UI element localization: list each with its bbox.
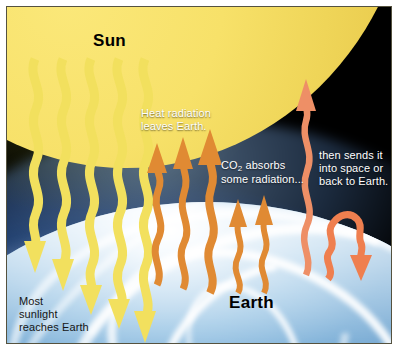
heat-arrow-3 [195,125,229,295]
label-heat-radiation-line2: leaves Earth. [141,120,251,133]
label-heat-radiation: Heat radiation leaves Earth. [141,107,251,133]
label-then-sends-it: then sends it into space or back to Eart… [319,149,391,188]
heat-arrow-4 [225,183,253,295]
co2-absorbs-word: absorbs [242,159,285,171]
label-co2-absorbs: CO2 absorbs some radiation... [221,159,317,186]
label-heat-radiation-line1: Heat radiation [141,107,251,120]
figure-frame: Sun Earth Heat radiation leaves Earth. C… [0,0,404,355]
label-most-sunlight-line2: sunlight [19,308,115,321]
heat-arrow-5 [251,179,279,295]
label-most-sunlight-line1: Most [19,295,115,308]
co2-formula-prefix: CO [221,159,238,171]
label-co2-absorbs-line1: CO2 absorbs [221,159,317,173]
label-then-sends-line3: back to Earth. [319,175,391,188]
back-to-earth-arrow [319,193,375,283]
sun-title: Sun [93,31,126,51]
label-most-sunlight: Most sunlight reaches Earth [19,295,115,334]
label-then-sends-line1: then sends it [319,149,391,162]
label-co2-absorbs-line2: some radiation... [221,173,317,186]
label-most-sunlight-line3: reaches Earth [19,321,115,334]
label-then-sends-line2: into space or [319,162,391,175]
earth-title: Earth [229,293,274,313]
illustration-plate: Sun Earth Heat radiation leaves Earth. C… [6,6,392,344]
